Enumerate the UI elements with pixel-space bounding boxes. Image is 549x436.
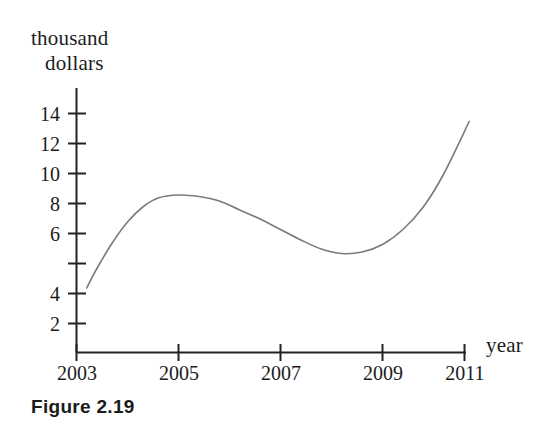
x-tick-label-2011: 2011: [430, 362, 500, 385]
y-tick-label-2: 2: [26, 313, 60, 336]
y-tick-label-8: 8: [26, 193, 60, 216]
y-tick-label-14: 14: [26, 103, 60, 126]
y-axis-title-line2: dollars: [31, 51, 108, 76]
x-axis-title: year: [486, 333, 523, 358]
y-tick-label-10: 10: [26, 163, 60, 186]
x-tick-label-2003: 2003: [42, 362, 112, 385]
figure-caption: Figure 2.19: [31, 396, 135, 418]
x-tick-label-2005: 2005: [144, 362, 214, 385]
x-tick-label-2009: 2009: [348, 362, 418, 385]
data-series-curve: [87, 122, 470, 289]
figure-container: thousand dollars year 14 12 10 8 6 4 2 2…: [0, 0, 549, 436]
y-tick-label-12: 12: [26, 133, 60, 156]
y-axis-title: thousand dollars: [31, 26, 108, 76]
y-tick-label-6: 6: [26, 223, 60, 246]
x-tick-label-2007: 2007: [246, 362, 316, 385]
y-axis-title-line1: thousand: [31, 26, 108, 50]
y-tick-label-4: 4: [26, 283, 60, 306]
